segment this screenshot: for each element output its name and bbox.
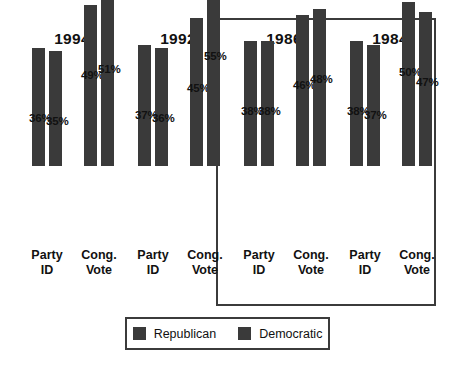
category-label-line2: Vote bbox=[176, 263, 234, 278]
legend-swatch-democratic bbox=[238, 327, 251, 340]
category-label-line1: Party bbox=[243, 248, 274, 262]
legend-label-democratic: Democratic bbox=[259, 327, 322, 341]
category-axis-label: PartyID bbox=[18, 248, 76, 278]
category-label-line1: Cong. bbox=[187, 248, 222, 262]
category-label-line2: Vote bbox=[70, 263, 128, 278]
category-cluster: 49%51%Cong.Vote bbox=[84, 0, 114, 300]
bar-value-label: 35% bbox=[46, 115, 68, 127]
category-label-line1: Cong. bbox=[81, 248, 116, 262]
category-cluster: 38%38%PartyID bbox=[244, 0, 274, 300]
category-axis-label: Cong.Vote bbox=[70, 248, 128, 278]
category-axis-label: PartyID bbox=[124, 248, 182, 278]
bar-democratic bbox=[313, 9, 326, 166]
category-label-line2: Vote bbox=[282, 263, 340, 278]
year-group: 199237%36%PartyID45%55%Cong.Vote bbox=[128, 0, 228, 300]
category-cluster: 45%55%Cong.Vote bbox=[190, 0, 220, 300]
category-label-line1: Cong. bbox=[399, 248, 434, 262]
bar-value-label: 51% bbox=[98, 63, 120, 75]
category-label-line1: Cong. bbox=[293, 248, 328, 262]
bar-democratic bbox=[261, 41, 274, 166]
category-label-line1: Party bbox=[31, 248, 62, 262]
bar-republican bbox=[84, 5, 97, 166]
category-label-line2: ID bbox=[336, 263, 394, 278]
year-group: 198438%37%PartyID50%47%Cong.Vote bbox=[340, 0, 440, 300]
bar-value-label: 38% bbox=[258, 105, 280, 117]
year-group: 199436%35%PartyID49%51%Cong.Vote bbox=[22, 0, 122, 300]
chart-legend: Republican Democratic bbox=[125, 317, 330, 350]
bar-democratic bbox=[49, 51, 62, 166]
legend-label-republican: Republican bbox=[154, 327, 217, 341]
legend-entry-democratic: Democratic bbox=[238, 327, 322, 341]
category-label-line1: Party bbox=[137, 248, 168, 262]
bar-democratic bbox=[367, 45, 380, 166]
category-label-line2: ID bbox=[18, 263, 76, 278]
bar-democratic bbox=[101, 0, 114, 166]
bar-republican bbox=[402, 2, 415, 166]
bar-democratic bbox=[419, 12, 432, 166]
bar-democratic bbox=[207, 0, 220, 166]
category-axis-label: PartyID bbox=[230, 248, 288, 278]
bar-value-label: 47% bbox=[416, 76, 438, 88]
category-cluster: 38%37%PartyID bbox=[350, 0, 380, 300]
bar-value-label: 48% bbox=[310, 73, 332, 85]
category-cluster: 37%36%PartyID bbox=[138, 0, 168, 300]
bar-value-label: 37% bbox=[364, 109, 386, 121]
legend-entry-republican: Republican bbox=[133, 327, 217, 341]
category-cluster: 46%48%Cong.Vote bbox=[296, 0, 326, 300]
category-label-line2: ID bbox=[230, 263, 288, 278]
bar-republican bbox=[32, 48, 45, 166]
bar-republican bbox=[138, 45, 151, 166]
category-label-line1: Party bbox=[349, 248, 380, 262]
category-axis-label: Cong.Vote bbox=[388, 248, 446, 278]
category-axis-label: PartyID bbox=[336, 248, 394, 278]
category-axis-label: Cong.Vote bbox=[282, 248, 340, 278]
category-cluster: 50%47%Cong.Vote bbox=[402, 0, 432, 300]
bar-value-label: 36% bbox=[152, 112, 174, 124]
bar-chart: 199436%35%PartyID49%51%Cong.Vote199237%3… bbox=[0, 0, 458, 378]
bar-republican bbox=[244, 41, 257, 166]
category-label-line2: Vote bbox=[388, 263, 446, 278]
bar-republican bbox=[350, 41, 363, 166]
year-group: 198638%38%PartyID46%48%Cong.Vote bbox=[234, 0, 334, 300]
category-cluster: 36%35%PartyID bbox=[32, 0, 62, 300]
bar-democratic bbox=[155, 48, 168, 166]
bar-value-label: 55% bbox=[204, 50, 226, 62]
category-label-line2: ID bbox=[124, 263, 182, 278]
legend-swatch-republican bbox=[133, 327, 146, 340]
category-axis-label: Cong.Vote bbox=[176, 248, 234, 278]
